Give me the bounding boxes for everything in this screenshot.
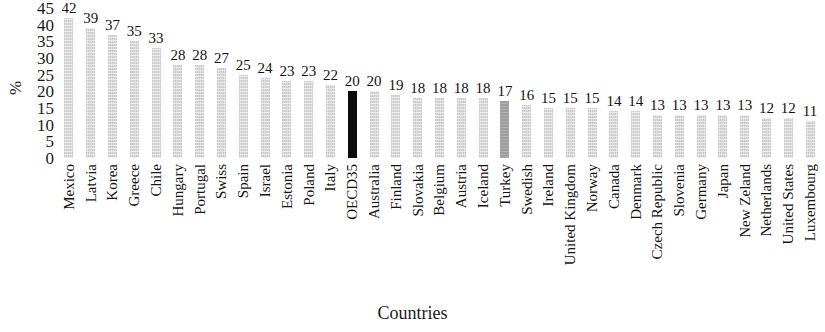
x-axis-tick-label: United States [781,164,796,244]
x-axis-tick-label: Denmark [628,164,643,220]
x-axis-tick-label-slot: Australia [363,160,385,290]
x-axis-tick-label-slot: Latvia [80,160,102,290]
bar [152,48,161,158]
x-axis-tick-label-slot: Spain [232,160,254,290]
bar-group: 27 [211,8,233,158]
x-axis-tick-label: Swiss [214,164,229,199]
x-axis-tick-label: Finland [388,164,403,210]
x-axis-title: Countries [0,303,825,324]
y-axis-tick-35: 35 [26,33,54,50]
x-axis-tick-label: Chile [149,164,164,197]
bar-value-label: 14 [628,94,643,109]
x-axis-tick-label-slot: Czech Republic [647,160,669,290]
bar [86,28,95,158]
bar-group: 23 [298,8,320,158]
y-axis-tick-40: 40 [26,16,54,33]
x-axis-tick-label-slot: United States [777,160,799,290]
x-axis-tick-label: Germany [694,164,709,220]
x-axis-tick-label: New Zeland [737,164,752,238]
bar [413,98,422,158]
x-axis-tick-label: Iceland [476,164,491,208]
bar-value-label: 23 [279,64,294,79]
bar [239,75,248,158]
x-axis-tick-label-slot: Canada [603,160,625,290]
x-axis-tick-label: Austria [454,164,469,208]
x-axis-tick-label-slot: Netherlands [756,160,778,290]
x-axis-tick-label-slot: Chile [145,160,167,290]
bar-group: 19 [385,8,407,158]
bar [544,108,553,158]
bar [370,91,379,158]
bar-group: 16 [516,8,538,158]
x-axis-tick-label-slot: Swiss [211,160,233,290]
bar-value-label: 15 [541,91,556,106]
x-axis-tick-label-slot: Portugal [189,160,211,290]
bar-value-label: 20 [345,74,360,89]
bar [806,121,815,158]
x-axis-tick-label: Poland [301,164,316,206]
bar [479,98,488,158]
bar [588,108,597,158]
x-axis-tick-label-slot: Luxembourg [799,160,821,290]
x-axis-tick-label-slot: United Kingdom [559,160,581,290]
bar [762,118,771,158]
x-axis-tick-label-slot: Israel [254,160,276,290]
bar [675,115,684,158]
x-axis-tick-label-slot: Slovenia [668,160,690,290]
bar-value-label: 39 [83,11,98,26]
x-axis-tick-label-slot: Korea [102,160,124,290]
bar-value-label: 27 [214,51,229,66]
bar-value-label: 23 [301,64,316,79]
bar [740,115,749,158]
bar [653,115,662,158]
bar [348,91,357,158]
y-axis-title: % [6,74,26,102]
bar-group: 22 [320,8,342,158]
x-axis-tick-label-slot: Norway [581,160,603,290]
x-axis-tick-label: Hungary [170,164,185,217]
bar-value-label: 17 [497,84,512,99]
x-axis-tick-label: Australia [367,164,382,219]
bar-value-label: 14 [606,94,621,109]
x-axis-tick-label: Greece [127,164,142,206]
bar-group: 39 [80,8,102,158]
x-axis-tick-label: Latvia [83,164,98,202]
bar-group: 37 [102,8,124,158]
bar-group: 11 [799,8,821,158]
x-axis-tick-label: Luxembourg [803,164,818,241]
y-axis-tick-20: 20 [26,83,54,100]
x-axis-tick-label: Spain [236,164,251,198]
x-axis-tick-label-slot: Swedish [516,160,538,290]
bar-value-label: 12 [759,101,774,116]
bar-group: 17 [494,8,516,158]
x-axis-tick-label: Mexico [61,164,76,210]
bar [195,65,204,158]
x-axis-tick-label: Norway [585,164,600,212]
bar-value-label: 18 [432,81,447,96]
bar-value-label: 13 [737,98,752,113]
y-axis-tick-15: 15 [26,100,54,117]
x-axis-tick-label-slot: Mexico [58,160,80,290]
bar-value-label: 18 [410,81,425,96]
bar-group: 13 [712,8,734,158]
bar [457,98,466,158]
bar-value-label: 24 [258,61,273,76]
bar-group: 12 [756,8,778,158]
bar-group: 14 [625,8,647,158]
bar-value-label: 12 [781,101,796,116]
bar-group: 28 [167,8,189,158]
bar [304,81,313,158]
bar-group: 18 [450,8,472,158]
bar [217,68,226,158]
bar [522,105,531,158]
bar-value-label: 15 [563,91,578,106]
bar-group: 13 [647,8,669,158]
x-axis-tick-label-slot: New Zeland [734,160,756,290]
x-axis-tick-label: Czech Republic [650,164,665,259]
x-axis-tick-label: Israel [258,164,273,197]
plot-area: 4239373533282827252423232220201918181818… [58,8,821,158]
x-axis-tick-label: Netherlands [759,164,774,236]
bar-value-label: 18 [476,81,491,96]
y-axis-tick-5: 5 [26,133,54,150]
bar-value-label: 13 [672,98,687,113]
